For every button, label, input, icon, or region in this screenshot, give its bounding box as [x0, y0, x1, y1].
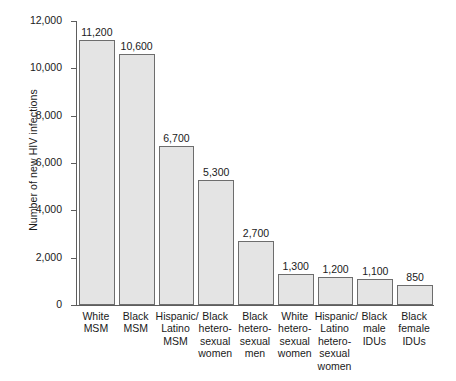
bar: 11,200 [79, 40, 115, 305]
category-label: BlackfemaleIDUs [394, 310, 434, 347]
plot-area: 12,00010,0008,0006,0004,0002,0000 11,200… [76, 21, 434, 305]
category-label: Hispanic/LatinoMSM [156, 310, 196, 347]
bar: 1,300 [278, 274, 314, 305]
y-axis-tick-label: 10,000 [30, 61, 62, 73]
y-axis-tick-label: 8,000 [36, 109, 62, 121]
y-axis-tick-label: 2,000 [36, 251, 62, 263]
y-axis-tick: 8,000 [71, 116, 76, 117]
bar-value-label: 11,200 [81, 26, 112, 38]
y-axis-tick-label: 6,000 [36, 156, 62, 168]
bar-chart: Number of new HIV infections 12,00010,00… [0, 0, 456, 381]
bar: 5,300 [198, 180, 234, 305]
y-axis-tick-label: 12,000 [30, 14, 62, 26]
category-label: BlackMSM [116, 310, 156, 335]
category-label: Whitehetero-sexualwomen [275, 310, 315, 360]
category-label: WhiteMSM [76, 310, 116, 335]
y-axis-tick: 6,000 [71, 163, 76, 164]
category-label: BlackmaleIDUs [354, 310, 394, 347]
bar-value-label: 1,300 [283, 260, 309, 272]
y-axis-line [76, 21, 77, 306]
bar-value-label: 2,700 [243, 227, 269, 239]
bar-value-label: 1,200 [322, 263, 348, 275]
y-axis-tick-label: 0 [56, 298, 62, 310]
bar-value-label: 5,300 [203, 166, 229, 178]
y-axis-tick: 4,000 [71, 210, 76, 211]
bar: 850 [397, 285, 433, 305]
y-axis-tick: 0 [71, 305, 76, 306]
y-axis-tick-label: 4,000 [36, 203, 62, 215]
bar: 1,100 [357, 279, 393, 305]
category-label: Blackhetero-sexualmen [235, 310, 275, 360]
bar-value-label: 6,700 [163, 132, 189, 144]
category-label: Blackhetero-sexualwomen [195, 310, 235, 360]
bar-value-label: 1,100 [362, 265, 388, 277]
bar: 6,700 [159, 146, 195, 305]
bar: 1,200 [318, 277, 354, 305]
bar: 10,600 [119, 54, 155, 305]
bar-value-label: 10,600 [121, 40, 153, 52]
bar-value-label: 850 [406, 271, 424, 283]
x-axis-line [76, 305, 434, 306]
y-axis-tick: 12,000 [71, 21, 76, 22]
bar: 2,700 [238, 241, 274, 305]
category-label: Hispanic/Latinohetero-sexualwomen [315, 310, 355, 372]
y-axis-tick: 2,000 [71, 258, 76, 259]
y-axis-tick: 10,000 [71, 68, 76, 69]
